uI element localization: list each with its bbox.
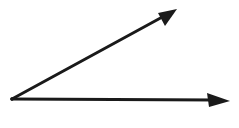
- upper-ray: [12, 9, 177, 99]
- vertex: [10, 97, 14, 101]
- upper-arrowhead-icon: [158, 9, 177, 26]
- lower-arrowhead-icon: [207, 93, 230, 107]
- angle-diagram: [0, 0, 239, 128]
- lower-ray: [12, 93, 230, 107]
